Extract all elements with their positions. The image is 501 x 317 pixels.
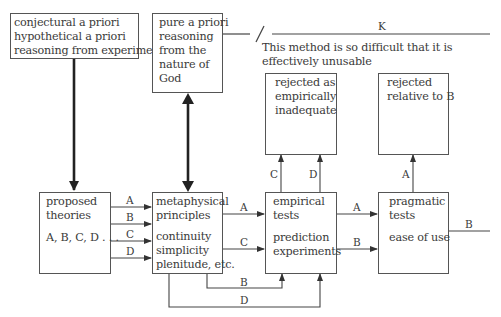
- edge-label-a: A: [240, 202, 248, 213]
- rejected-emp-line-2: empirically: [275, 90, 336, 104]
- emp-line-2: tests: [273, 209, 299, 223]
- meta-sub-2: simplicity: [156, 244, 209, 258]
- rejected-emp-line-1: rejected as: [275, 76, 335, 90]
- edge-label-a: A: [353, 202, 361, 213]
- conjectural-line-3: reasoning from experiment: [14, 44, 164, 58]
- edge-label-a: A: [126, 195, 134, 206]
- rejected-rel-line-1: rejected: [387, 76, 432, 90]
- break-slash: [256, 26, 264, 42]
- theories-line-1: proposed: [46, 195, 97, 209]
- emp-sub-1: prediction: [273, 231, 329, 245]
- edge-label-b: B: [126, 212, 134, 223]
- prag-sub-1: ease of use: [389, 231, 450, 245]
- note-line-1: This method is so difficult that it is: [262, 41, 452, 55]
- meta-sub-1: continuity: [156, 230, 211, 244]
- edge-label-b: B: [353, 237, 361, 248]
- rejected-rel-line-2: relative to B: [387, 90, 454, 104]
- edge-label-b: B: [240, 277, 248, 288]
- prag-line-1: pragmatic: [389, 195, 445, 209]
- rejected-emp-line-3: inadequate: [275, 104, 336, 118]
- conjectural-line-2: hypothetical a priori: [14, 30, 126, 44]
- k-label: K: [378, 21, 386, 32]
- edge-label-d: D: [126, 246, 134, 257]
- prag-line-2: tests: [389, 209, 415, 223]
- edge-label-d: D: [240, 295, 248, 306]
- edge-label-b: B: [465, 219, 473, 230]
- meta-line-1: metaphysical: [156, 195, 229, 209]
- meta-line-2: principles: [156, 209, 210, 223]
- note-line-2: effectively unusable: [262, 55, 372, 69]
- edge-label-d: D: [309, 169, 317, 180]
- theories-line-2: theories: [46, 209, 91, 223]
- edge-label-c: C: [240, 237, 248, 248]
- conjectural-line-1: conjectural a priori: [14, 16, 119, 30]
- pure-line-4: nature of: [159, 58, 209, 72]
- pure-line-3: from the: [159, 44, 206, 58]
- edge-label-a: A: [402, 169, 410, 180]
- edge-label-c: C: [270, 169, 278, 180]
- theories-list: A, B, C, D . . .: [46, 231, 119, 245]
- pure-line-1: pure a priori: [159, 16, 228, 30]
- edge-label-c: C: [126, 229, 134, 240]
- pure-line-2: reasoning: [159, 30, 213, 44]
- meta-sub-3: plenitude, etc.: [156, 258, 235, 272]
- pure-line-5: God: [159, 72, 181, 86]
- emp-sub-2: experiments: [273, 245, 341, 259]
- emp-line-1: empirical: [273, 195, 325, 209]
